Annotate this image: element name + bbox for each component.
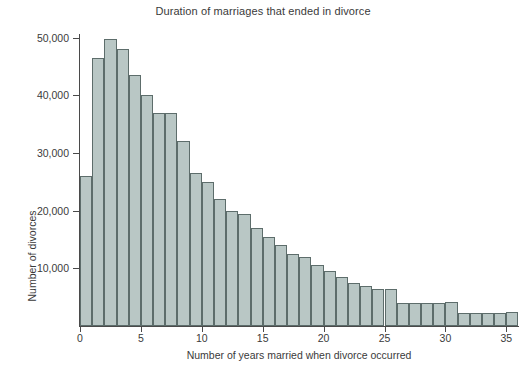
bar xyxy=(494,313,506,326)
bar xyxy=(385,289,397,327)
bar xyxy=(445,302,457,326)
bar xyxy=(506,312,518,326)
x-axis-label: Number of years married when divorce occ… xyxy=(80,349,518,361)
x-axis-tick-label: 5 xyxy=(121,332,161,344)
y-axis-tick xyxy=(73,268,80,269)
chart-title: Duration of marriages that ended in divo… xyxy=(0,5,526,17)
y-axis-tick xyxy=(73,38,80,39)
bar xyxy=(299,257,311,326)
plot-area xyxy=(80,30,518,326)
y-axis-label: Number of divorces xyxy=(26,186,38,326)
bar xyxy=(409,303,421,326)
bar xyxy=(117,49,129,326)
bar xyxy=(336,277,348,326)
x-axis-tick-label: 20 xyxy=(304,332,344,344)
chart-container: Duration of marriages that ended in divo… xyxy=(0,0,526,380)
x-axis-tick-label: 25 xyxy=(365,332,405,344)
bar xyxy=(263,237,275,326)
bar xyxy=(129,75,141,326)
bar xyxy=(104,39,116,326)
bar xyxy=(421,303,433,326)
bar xyxy=(470,313,482,326)
bar xyxy=(214,199,226,326)
bar xyxy=(202,182,214,326)
y-axis-tick xyxy=(73,211,80,212)
x-axis-line xyxy=(79,326,519,327)
y-axis-tick xyxy=(73,95,80,96)
bar xyxy=(92,58,104,326)
bar xyxy=(80,176,92,326)
bar xyxy=(360,286,372,326)
bar xyxy=(190,173,202,326)
bar xyxy=(287,254,299,326)
bar xyxy=(177,141,189,326)
y-axis-tick-label-text: 50,000 xyxy=(9,32,69,44)
bar xyxy=(311,265,323,326)
bar xyxy=(226,211,238,326)
y-axis-title-holder: Number of divorces xyxy=(0,100,30,260)
bar xyxy=(141,95,153,326)
bar xyxy=(165,113,177,326)
bar xyxy=(251,228,263,326)
x-axis-tick-label: 0 xyxy=(60,332,100,344)
bar xyxy=(458,313,470,326)
x-axis-tick-label: 30 xyxy=(425,332,465,344)
bar xyxy=(372,289,384,327)
y-axis-tick-label: 50,000 xyxy=(5,32,69,44)
bar xyxy=(348,283,360,326)
x-axis-tick-label: 10 xyxy=(182,332,222,344)
bar xyxy=(275,245,287,326)
bar xyxy=(482,313,494,326)
bar xyxy=(324,271,336,326)
x-axis-tick-label: 35 xyxy=(486,332,526,344)
y-axis-tick xyxy=(73,153,80,154)
bar xyxy=(397,303,409,326)
x-axis-tick-label: 15 xyxy=(243,332,283,344)
bar xyxy=(153,113,165,326)
bar xyxy=(238,214,250,327)
y-axis-tick-label-text: 10,000 xyxy=(9,262,69,274)
bar xyxy=(433,303,445,326)
